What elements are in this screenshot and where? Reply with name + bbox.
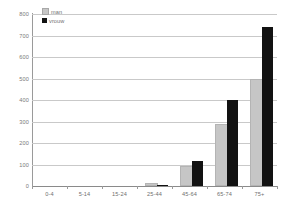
y-tick-label: 100 <box>3 162 29 168</box>
x-tick-label-5-14: 5-14 <box>79 191 91 197</box>
y-tick-label: 800 <box>3 11 29 17</box>
y-tick-label: 0 <box>3 183 29 189</box>
x-tick-mark <box>102 186 103 189</box>
x-tick-label-75+: 75+ <box>255 191 265 197</box>
chart-legend: manvrouw <box>42 8 64 24</box>
x-tick-mark <box>172 186 173 189</box>
y-axis-tick-labels: 8007006005004003002001000 <box>0 0 29 209</box>
x-tick-mark <box>277 186 278 189</box>
plot-area <box>32 14 277 186</box>
legend-item-vrouw: vrouw <box>42 17 64 24</box>
x-tick-mark <box>242 186 243 189</box>
x-tick-label-65-74: 65-74 <box>217 191 232 197</box>
bar-group <box>242 14 277 186</box>
x-tick-label-45-64: 45-64 <box>182 191 197 197</box>
bar-group <box>172 14 207 186</box>
bar-group <box>102 14 137 186</box>
bar-group <box>32 14 67 186</box>
x-tick-mark <box>207 186 208 189</box>
x-tick-mark <box>32 186 33 189</box>
x-tick-label-25-44: 25-44 <box>147 191 162 197</box>
man-swatch-icon <box>42 8 49 15</box>
legend-label: vrouw <box>49 18 64 24</box>
bars-layer <box>32 14 277 186</box>
x-tick-mark <box>137 186 138 189</box>
bar-group <box>137 14 172 186</box>
y-tick-label: 500 <box>3 76 29 82</box>
y-tick-label: 400 <box>3 97 29 103</box>
y-tick-label: 700 <box>3 33 29 39</box>
x-tick-label-15-24: 15-24 <box>112 191 127 197</box>
y-tick-label: 200 <box>3 140 29 146</box>
bar-vrouw-65-74 <box>227 100 238 186</box>
x-tick-mark <box>67 186 68 189</box>
bar-chart: 8007006005004003002001000 0-45-1415-2425… <box>0 0 285 209</box>
legend-item-man: man <box>42 8 64 15</box>
x-tick-label-0-4: 0-4 <box>45 191 53 197</box>
y-tick-label: 300 <box>3 119 29 125</box>
bar-vrouw-75+ <box>262 27 273 186</box>
vrouw-swatch-icon <box>42 18 47 23</box>
bar-group <box>207 14 242 186</box>
bar-vrouw-45-64 <box>192 161 203 186</box>
legend-label: man <box>51 9 62 15</box>
bar-group <box>67 14 102 186</box>
y-tick-label: 600 <box>3 54 29 60</box>
x-axis-tick-labels: 0-45-1415-2425-4445-6465-7475+ <box>32 191 277 203</box>
